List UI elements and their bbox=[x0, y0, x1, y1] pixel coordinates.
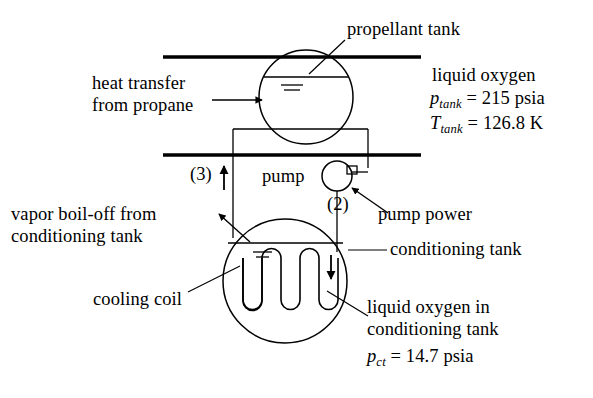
schematic-drawing bbox=[0, 0, 593, 398]
equation-t-tank: Ttank = 126.8 K bbox=[430, 112, 543, 140]
label-pump-power: pump power bbox=[378, 203, 472, 225]
equation-p-tank-value: 215 bbox=[482, 88, 510, 108]
equation-t-tank-relation: = bbox=[468, 113, 479, 133]
conditioning-tank-shell bbox=[223, 219, 347, 343]
label-vapor-boil-off-line1: vapor boil-off from bbox=[11, 203, 156, 225]
label-lox-in-ct-line1: liquid oxygen in bbox=[367, 296, 499, 318]
equation-p-ct-unit: psia bbox=[443, 346, 473, 366]
label-heat-transfer-line1: heat transfer bbox=[92, 72, 193, 94]
equation-t-tank-unit: K bbox=[530, 113, 543, 133]
equation-p-tank-unit: psia bbox=[515, 88, 545, 108]
figure-canvas: propellant tank heat transfer from propa… bbox=[0, 0, 593, 398]
lox-in-ct-leader bbox=[327, 291, 368, 316]
label-pump: pump bbox=[262, 165, 305, 187]
label-liquid-oxygen-in-conditioning-tank: liquid oxygen in conditioning tank bbox=[367, 296, 499, 340]
propellant-tank-shell bbox=[259, 50, 353, 144]
equation-p-ct-value: 14.7 bbox=[406, 346, 439, 366]
label-state-3: (3) bbox=[190, 163, 212, 185]
equation-p-tank-subscript: tank bbox=[439, 97, 461, 111]
label-conditioning-tank: conditioning tank bbox=[390, 238, 522, 260]
equation-p-ct: pct = 14.7 psia bbox=[367, 345, 474, 373]
label-lox-in-ct-line2: conditioning tank bbox=[367, 318, 499, 340]
equation-p-ct-subscript: ct bbox=[376, 355, 385, 369]
vapor-boiloff-leader bbox=[219, 214, 250, 242]
label-liquid-oxygen: liquid oxygen bbox=[432, 64, 536, 86]
label-heat-transfer-from-propane: heat transfer from propane bbox=[92, 72, 193, 116]
equation-t-tank-value: 126.8 bbox=[483, 113, 525, 133]
label-vapor-boil-off-line2: conditioning tank bbox=[11, 225, 156, 247]
equation-p-tank: ptank = 215 psia bbox=[430, 87, 545, 115]
equation-p-ct-relation: = bbox=[391, 346, 402, 366]
equation-p-tank-relation: = bbox=[467, 88, 478, 108]
equation-p-ct-symbol: p bbox=[367, 346, 376, 366]
cooling-coil bbox=[243, 258, 262, 311]
label-state-2: (2) bbox=[327, 193, 349, 215]
label-cooling-coil: cooling coil bbox=[93, 288, 182, 310]
equation-p-tank-symbol: p bbox=[430, 88, 439, 108]
equation-t-tank-symbol: T bbox=[430, 113, 440, 133]
cooling-coil-leader bbox=[188, 266, 240, 292]
label-propellant-tank: propellant tank bbox=[347, 18, 460, 40]
equation-t-tank-subscript: tank bbox=[440, 122, 462, 136]
label-heat-transfer-line2: from propane bbox=[92, 94, 193, 116]
label-vapor-boil-off: vapor boil-off from conditioning tank bbox=[11, 203, 156, 247]
